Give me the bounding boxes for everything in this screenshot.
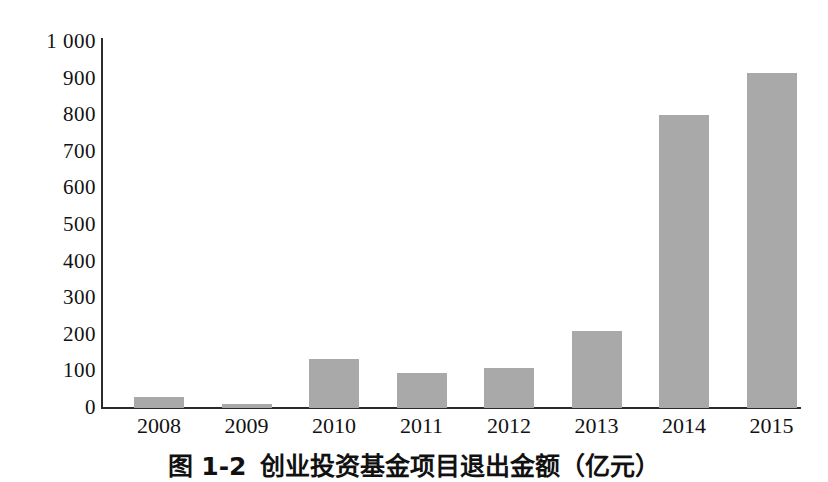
y-axis-tick-300: 300 xyxy=(4,287,96,308)
bar-2015 xyxy=(747,73,797,408)
bar-2009 xyxy=(222,404,272,408)
x-axis-tick-2009: 2009 xyxy=(202,413,292,439)
y-axis-tick-500: 500 xyxy=(4,214,96,235)
bar-2014 xyxy=(659,115,709,408)
x-axis-tick-2015: 2015 xyxy=(727,413,817,439)
caption-text: 创业投资基金项目退出金额（亿元） xyxy=(260,452,660,481)
y-axis-tick-900: 900 xyxy=(4,68,96,89)
y-axis-tick-1000: 1 000 xyxy=(4,31,96,52)
x-axis-tick-2014: 2014 xyxy=(639,413,729,439)
y-axis-tick-600: 600 xyxy=(4,177,96,198)
figure-caption: 图 1-2创业投资基金项目退出金额（亿元） xyxy=(0,452,828,482)
y-axis-tick-0: 0 xyxy=(4,397,96,418)
bar-2011 xyxy=(397,373,447,408)
x-axis-tick-2011: 2011 xyxy=(377,413,467,439)
x-axis-tick-2008: 2008 xyxy=(114,413,204,439)
chart-plot-area: 01002003004005006007008009001 000 200820… xyxy=(0,0,828,440)
bar-2013 xyxy=(572,331,622,408)
caption-number: 图 1-2 xyxy=(168,452,247,481)
y-axis-tick-100: 100 xyxy=(4,360,96,381)
bar-2010 xyxy=(309,359,359,408)
y-axis-tick-400: 400 xyxy=(4,251,96,272)
y-axis-tick-800: 800 xyxy=(4,104,96,125)
bar-2008 xyxy=(134,397,184,408)
x-axis-tick-2013: 2013 xyxy=(552,413,642,439)
x-axis-tick-2012: 2012 xyxy=(464,413,554,439)
bar-2012 xyxy=(484,368,534,408)
y-axis-line xyxy=(101,38,103,409)
y-axis-tick-200: 200 xyxy=(4,324,96,345)
x-axis-tick-2010: 2010 xyxy=(289,413,379,439)
y-axis-tick-labels: 01002003004005006007008009001 000 xyxy=(0,0,96,440)
y-axis-tick-700: 700 xyxy=(4,141,96,162)
